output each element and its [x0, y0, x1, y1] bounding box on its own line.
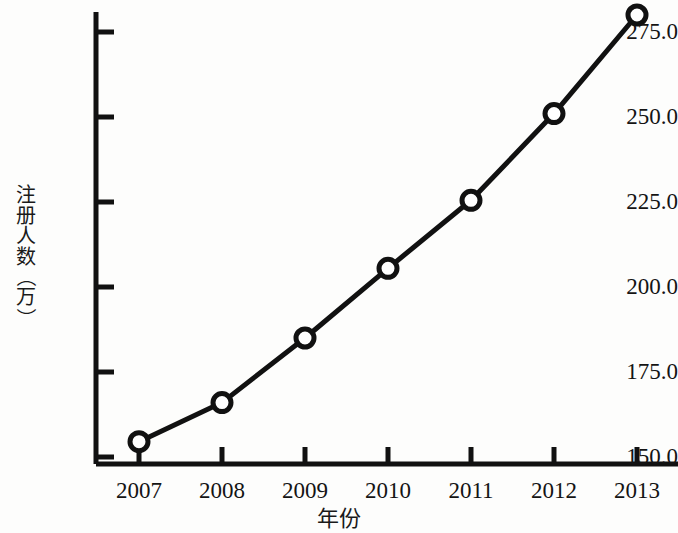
y-axis-title-char: ）	[16, 308, 36, 328]
y-axis-ticks	[96, 32, 114, 457]
data-point-marker	[462, 191, 480, 209]
line-chart: 注 册 人 数 （ 万 ） 150.0175.0200.0225.0250.02…	[0, 0, 678, 533]
x-axis-ticks	[139, 447, 637, 464]
y-axis-tick-label: 250.0	[594, 104, 678, 130]
data-point-marker	[545, 105, 563, 123]
data-point-marker	[130, 433, 148, 451]
y-axis-title: 注 册 人 数 （ 万 ）	[6, 185, 46, 328]
y-axis-title-char: 册	[16, 206, 36, 227]
data-point-marker	[379, 259, 397, 277]
axes	[96, 12, 678, 464]
x-axis-title: 年份	[0, 500, 678, 532]
data-point-marker	[213, 394, 231, 412]
y-axis-title-char: 人	[16, 226, 36, 247]
y-axis-tick-label: 225.0	[594, 189, 678, 215]
y-axis-tick-label: 200.0	[594, 274, 678, 300]
y-axis-title-char: （	[16, 267, 36, 287]
y-axis-tick-label: 175.0	[594, 359, 678, 385]
y-axis-title-char: 注	[16, 185, 36, 206]
data-markers	[130, 6, 646, 451]
y-axis-tick-label: 150.0	[594, 444, 678, 470]
data-point-marker	[296, 329, 314, 347]
y-axis-title-char: 数	[16, 247, 36, 268]
y-axis-tick-label: 275.0	[594, 19, 678, 45]
plot-area	[0, 0, 678, 533]
y-axis-title-char: 万	[16, 287, 36, 308]
data-line	[139, 15, 637, 442]
